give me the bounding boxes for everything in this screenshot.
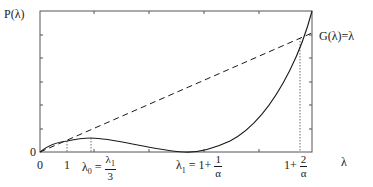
- fraction-denominator: α: [215, 167, 221, 179]
- curve-p-lambda: [40, 11, 312, 152]
- x-axis-label: λ: [341, 156, 347, 168]
- reference-lines: [67, 38, 300, 152]
- y-axis-label: P(λ): [4, 8, 24, 20]
- fraction-denominator: α: [301, 167, 307, 179]
- y-origin-label: 0: [30, 146, 36, 158]
- x-tick-zero: 0: [37, 159, 43, 171]
- y-ticks: [40, 11, 312, 152]
- x-tick-lambda1: λ1 = 1+ 1 α: [176, 154, 222, 179]
- lambda1-fraction: 1 α: [214, 154, 222, 179]
- plot-frame: [40, 11, 312, 152]
- upper-one-plus: 1+: [284, 158, 297, 172]
- x-tick-one: 1: [64, 159, 70, 171]
- lambda1-equals: = 1+: [189, 158, 212, 172]
- lambda1-subscript: 1: [182, 166, 186, 175]
- line-label: G(λ)=λ: [319, 30, 354, 42]
- line-g-lambda: [40, 33, 312, 152]
- x-tick-upper: 1+ 2 α: [284, 154, 307, 179]
- lambda0-equals: =: [95, 160, 102, 174]
- fraction-denominator: 3: [108, 170, 114, 182]
- lambda0-fraction: λ1 3: [105, 154, 116, 182]
- fraction-numerator: 2: [300, 154, 308, 167]
- upper-fraction: 2 α: [300, 154, 308, 179]
- fraction-numerator: 1: [214, 154, 222, 167]
- lambda0-subscript: 0: [88, 167, 92, 176]
- x-tick-lambda0: λ0 = λ1 3: [82, 154, 116, 182]
- fraction-numerator-sub: 1: [111, 159, 115, 168]
